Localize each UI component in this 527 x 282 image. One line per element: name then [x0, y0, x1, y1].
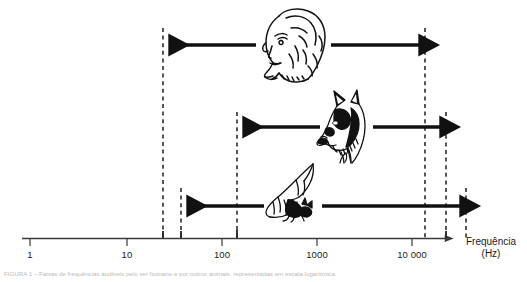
- axis-title: Frequência (Hz): [455, 236, 527, 260]
- figure-hearing-ranges: 1 10 100 1000 10 000 Frequência (Hz) FIG…: [0, 0, 527, 282]
- figure-caption: FIGURA 1 – Faixas de frequências audívei…: [4, 270, 523, 277]
- axis-title-line1: Frequência: [455, 236, 527, 248]
- frequency-axis: [0, 0, 527, 282]
- axis-major-ticks: [30, 239, 412, 247]
- axis-tick-label-10000: 10 000: [397, 249, 427, 260]
- axis-tick-label-100: 100: [214, 249, 230, 260]
- axis-tick-label-1000: 1000: [306, 249, 328, 260]
- axis-tick-label-1: 1: [27, 249, 32, 260]
- axis-boundary-ticks: [163, 230, 446, 238]
- axis-tick-label-10: 10: [122, 249, 133, 260]
- axis-title-line2: (Hz): [455, 248, 527, 260]
